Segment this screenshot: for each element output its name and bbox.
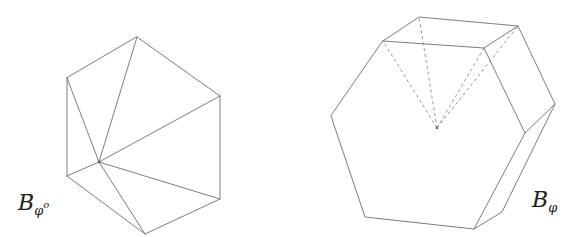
right-interior-point <box>436 127 438 129</box>
diagram-canvas <box>0 0 586 237</box>
left-interior-point <box>98 161 100 163</box>
label-sub-symbol: φ <box>34 203 43 218</box>
label-subscript: φo <box>34 203 49 218</box>
right-side-face <box>518 26 555 133</box>
left-hexagon <box>67 37 220 234</box>
right-hidden-edges <box>383 17 518 128</box>
label-superscript: o <box>43 199 49 210</box>
left-hexagon-outline <box>67 37 220 234</box>
right-figure-label: Bφ <box>532 187 557 215</box>
right-front-face <box>331 41 525 229</box>
left-figure-label: Bφo <box>18 190 49 218</box>
right-solid <box>331 17 555 229</box>
label-main: B <box>18 190 34 215</box>
left-triangulation-edges <box>67 37 220 234</box>
right-top-face <box>383 17 518 48</box>
label-main: B <box>532 187 548 212</box>
label-subscript: φ <box>548 200 557 215</box>
